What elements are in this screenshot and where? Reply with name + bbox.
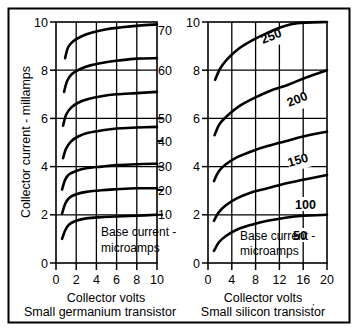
xtick-label-g-8: 8 [133, 273, 140, 287]
xtick-label-s-16: 16 [296, 273, 310, 287]
chart-title-silicon: Small silicon transistor [201, 305, 325, 319]
xtick-label-g-0: 0 [53, 273, 60, 287]
xtick-label-g-2: 2 [73, 273, 80, 287]
ytick-label-s-10: 10 [186, 16, 200, 30]
curve-label-g-60: 60 [158, 64, 172, 78]
xlabel-germanium: Collector volts [67, 291, 146, 305]
xlabel-silicon: Collector volts [224, 291, 303, 305]
transistor-characteristic-curves-figure: Collector current - millamps 0 2 4 6 8 1… [0, 0, 359, 333]
ytick-label-g-10: 10 [34, 16, 48, 30]
xtick-label-g-6: 6 [113, 273, 120, 287]
chart-title-germanium: Small germanium transistor [24, 305, 176, 319]
annotation-germanium-line1: Base current - [101, 225, 176, 239]
ytick-label-s-2: 2 [193, 208, 200, 222]
xtick-label-s-8: 8 [252, 273, 259, 287]
xtick-label-s-20: 20 [320, 273, 334, 287]
curve-label-g-50: 50 [158, 112, 172, 126]
annotation-silicon-line2: microamps [240, 244, 299, 258]
annotation-germanium-line2: microamps [101, 241, 160, 255]
curve-label-g-10: 10 [158, 208, 172, 222]
ytick-label-s-8: 8 [193, 64, 200, 78]
xtick-label-s-0: 0 [205, 273, 212, 287]
ytick-label-s-4: 4 [193, 160, 200, 174]
ytick-label-g-8: 8 [41, 64, 48, 78]
ytick-label-g-6: 6 [41, 112, 48, 126]
curve-label-g-40: 40 [158, 135, 172, 149]
ytick-label-s-6: 6 [193, 112, 200, 126]
ytick-label-g-2: 2 [41, 208, 48, 222]
curve-label-g-70: 70 [158, 24, 172, 38]
curve-label-s-50: 50 [293, 229, 307, 243]
xtick-label-s-12: 12 [272, 273, 286, 287]
curve-label-g-30: 30 [158, 160, 172, 174]
xtick-label-s-4: 4 [228, 273, 235, 287]
ylabel-germanium: Collector current - millamps [19, 66, 33, 218]
xtick-label-g-4: 4 [93, 273, 100, 287]
xtick-label-g-10: 10 [150, 273, 164, 287]
ytick-label-s-0: 0 [193, 257, 200, 271]
curve-label-s-100: 100 [295, 198, 316, 212]
ytick-label-g-0: 0 [41, 257, 48, 271]
ytick-label-g-4: 4 [41, 160, 48, 174]
curve-label-g-20: 20 [158, 184, 172, 198]
xlabel-silicon-subscript-mark: , [312, 297, 315, 307]
